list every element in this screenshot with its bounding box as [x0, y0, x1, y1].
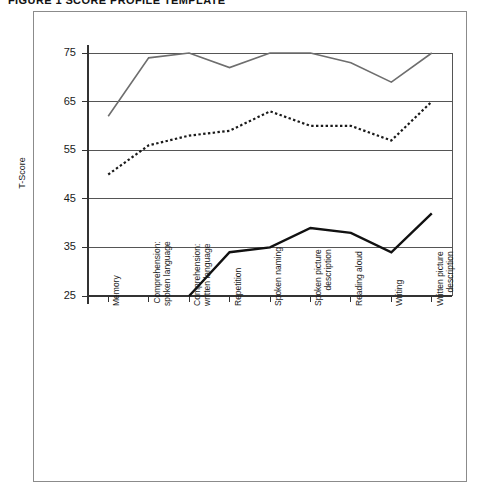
y-tick-label: 25	[50, 289, 76, 301]
x-tick-label: Comprehension: spoken language	[153, 241, 172, 306]
chart-axes	[82, 45, 452, 304]
x-tick-label: Writing	[395, 280, 405, 306]
x-tick-label: Memory	[112, 275, 122, 306]
x-tick-label: Comprehension: written language	[193, 244, 212, 306]
x-tick-label: Written picture description	[436, 251, 455, 306]
x-tick-label: Reading aloud	[355, 251, 365, 306]
y-tick-label: 65	[50, 95, 76, 107]
x-tick-label: Repetition	[234, 268, 244, 306]
x-tick-label: Spoken picture description	[314, 249, 333, 306]
y-tick-label: 55	[50, 143, 76, 155]
y-tick-label: 75	[50, 46, 76, 58]
series-line-2	[108, 102, 432, 175]
y-tick-label: 35	[50, 240, 76, 252]
y-tick-label: 45	[50, 192, 76, 204]
y-axis-title: T-Score	[17, 133, 27, 213]
chart-gridlines	[88, 53, 452, 296]
x-tick-label: Spoken naming	[274, 247, 284, 306]
series-line-1	[108, 53, 432, 116]
